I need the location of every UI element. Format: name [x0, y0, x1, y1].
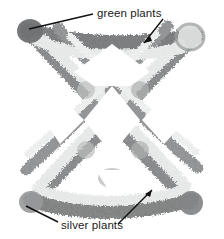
silver-leader-left-line: [26, 206, 58, 222]
annotation-leader-lines: [0, 0, 224, 239]
silver-plants-label: silver plants: [61, 219, 123, 232]
green-leader-left-line: [29, 14, 93, 29]
green-plants-label: green plants: [97, 7, 162, 20]
green-leader-right-line: [144, 19, 163, 43]
plant-plot-figure: green plants silver plants: [0, 0, 224, 239]
